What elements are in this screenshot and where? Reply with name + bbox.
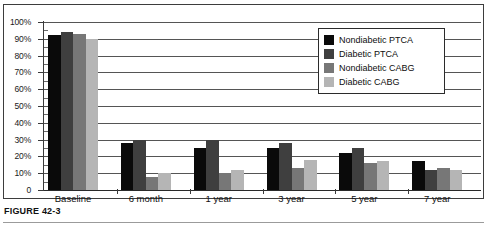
y-axis-tick	[38, 39, 43, 40]
x-axis-category-label: 5 year	[351, 193, 377, 204]
legend-item: Diabetic PTCA	[324, 47, 438, 61]
bar	[437, 168, 450, 190]
bar	[352, 148, 365, 190]
y-axis-tick	[38, 173, 43, 174]
bar	[339, 153, 352, 190]
bar	[146, 177, 159, 190]
y-axis-minor-tick	[44, 182, 48, 183]
legend-swatch-icon	[324, 77, 334, 87]
bar	[48, 35, 61, 190]
legend-swatch-icon	[324, 49, 334, 59]
y-axis-tick-label: 90%	[15, 34, 31, 44]
y-axis-tick-label: 50%	[15, 101, 31, 111]
legend-item: Diabetic CABG	[324, 75, 438, 89]
y-axis-tick-label: 20%	[15, 151, 31, 161]
bar	[231, 170, 244, 190]
bar-group	[194, 22, 244, 190]
bar	[194, 148, 207, 190]
y-axis-tick	[38, 89, 43, 90]
legend-label: Diabetic CABG	[339, 78, 400, 87]
y-axis-tick-label: 70%	[15, 67, 31, 77]
bar	[121, 143, 134, 190]
bar	[425, 170, 438, 190]
y-axis-tick-label: 10%	[15, 168, 31, 178]
y-axis-tick-label: 30%	[15, 135, 31, 145]
legend-label: Nondiabetic CABG	[339, 64, 415, 73]
y-axis-tick-label: 80%	[15, 51, 31, 61]
x-axis-category-label: 3 year	[278, 193, 304, 204]
bar	[304, 160, 317, 190]
figure-container: 100%90%80%70%60%50%40%30%20%10%0 Baselin…	[0, 0, 488, 245]
y-axis-tick-label: 40%	[15, 118, 31, 128]
y-axis-minor-tick	[44, 47, 48, 48]
bar	[412, 161, 425, 190]
bar	[364, 163, 377, 190]
y-axis-tick	[38, 72, 43, 73]
y-axis-tick-label: 100%	[10, 17, 31, 27]
legend-label: Nondiabetic PTCA	[339, 36, 413, 45]
bar-group	[267, 22, 317, 190]
bar	[61, 32, 74, 190]
x-axis-category-label: Baseline	[55, 193, 91, 204]
legend-swatch-icon	[324, 35, 334, 45]
y-axis-tick	[38, 190, 43, 191]
bar	[292, 168, 305, 190]
y-axis-tick	[38, 22, 43, 23]
legend-swatch-icon	[324, 63, 334, 73]
bar	[267, 148, 280, 190]
bar	[73, 34, 86, 190]
bar	[86, 39, 99, 190]
y-axis-tick-label: 60%	[15, 84, 31, 94]
chart-legend: Nondiabetic PTCADiabetic PTCANondiabetic…	[318, 28, 445, 94]
chart-frame: 100%90%80%70%60%50%40%30%20%10%0 Baselin…	[3, 4, 484, 199]
y-axis-minor-tick	[44, 30, 48, 31]
bar-group	[48, 22, 98, 190]
bar	[377, 161, 390, 190]
y-axis-tick	[38, 56, 43, 57]
y-axis-tick	[38, 156, 43, 157]
figure-caption: FIGURE 42-3	[4, 206, 61, 216]
y-axis-minor-tick	[44, 81, 48, 82]
y-axis-minor-tick	[44, 148, 48, 149]
x-axis-category-label: 6 month	[129, 193, 163, 204]
x-axis-category-label: 7 year	[424, 193, 450, 204]
bar	[450, 170, 463, 190]
y-axis-tick	[38, 140, 43, 141]
bar	[219, 173, 232, 190]
y-axis-tick-label: 0	[26, 185, 31, 195]
y-axis-minor-tick	[44, 165, 48, 166]
bar	[133, 140, 146, 190]
y-axis-tick	[38, 123, 43, 124]
bar	[279, 143, 292, 190]
y-axis-minor-tick	[44, 131, 48, 132]
caption-divider	[3, 222, 484, 223]
legend-label: Diabetic PTCA	[339, 50, 398, 59]
x-axis-category-label: 1 year	[205, 193, 231, 204]
y-axis-minor-tick	[44, 64, 48, 65]
y-axis-minor-tick	[44, 114, 48, 115]
bar	[158, 173, 171, 190]
legend-item: Nondiabetic CABG	[324, 61, 438, 75]
y-axis-tick	[38, 106, 43, 107]
x-axis-labels: Baseline6 month1 year3 year5 year7 year	[44, 193, 481, 211]
bar	[206, 140, 219, 190]
legend-item: Nondiabetic PTCA	[324, 33, 438, 47]
bar-group	[121, 22, 171, 190]
y-axis-minor-tick	[44, 98, 48, 99]
